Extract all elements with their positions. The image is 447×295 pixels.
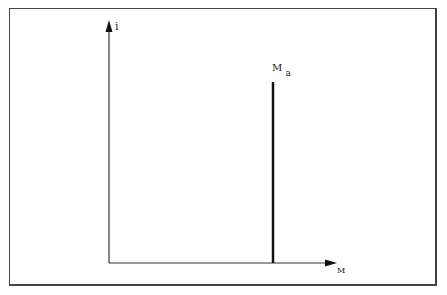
y-axis-arrow-icon [106, 20, 113, 32]
x-axis-label: M [337, 266, 345, 275]
marker-label: M a [272, 62, 291, 78]
x-axis-arrow-icon [325, 260, 337, 267]
y-axis-label: i [115, 20, 119, 33]
marker-label-sub: a [285, 68, 291, 78]
marker-label-main: M [272, 62, 282, 73]
axes-diagram: i M M a [0, 0, 447, 295]
